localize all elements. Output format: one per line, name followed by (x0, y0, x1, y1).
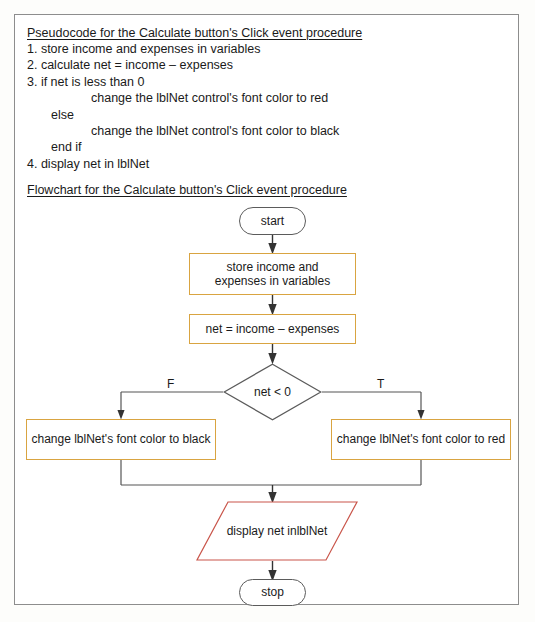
flow-node-stop-label: stop (261, 585, 284, 600)
flow-node-calculate-net-label: net = income – expenses (206, 322, 340, 337)
figure-frame: Pseudocode for the Calculate button's Cl… (14, 14, 519, 605)
flow-node-display-output[interactable]: display net in lblNet (196, 501, 358, 561)
diamond-shape-icon (223, 363, 322, 421)
figure-canvas: Pseudocode for the Calculate button's Cl… (0, 0, 535, 622)
flow-node-store-income-label: store income and expenses in variables (215, 260, 330, 289)
flow-node-false-branch[interactable]: change lblNet's font color to black (26, 419, 216, 460)
flow-node-start-label: start (261, 214, 284, 229)
flow-node-store-income-line1: store income and (226, 260, 318, 274)
parallelogram-shape-icon (196, 501, 358, 561)
flow-node-true-branch[interactable]: change lblNet's font color to red (331, 419, 511, 460)
flow-node-calculate-net[interactable]: net = income – expenses (189, 314, 356, 344)
flow-node-false-branch-label: change lblNet's font color to black (31, 432, 210, 447)
flow-node-stop[interactable]: stop (239, 579, 306, 606)
flow-node-store-income-line2: expenses in variables (215, 274, 330, 288)
flow-node-start[interactable]: start (239, 207, 306, 235)
flow-node-true-branch-label: change lblNet's font color to red (337, 432, 505, 447)
flowchart-diagram: start store income and expenses in varia… (15, 15, 518, 604)
flow-node-decision[interactable]: net < 0 (223, 363, 322, 421)
flow-node-store-income[interactable]: store income and expenses in variables (189, 253, 356, 295)
branch-label-false: F (167, 377, 174, 391)
branch-label-true: T (377, 377, 384, 391)
